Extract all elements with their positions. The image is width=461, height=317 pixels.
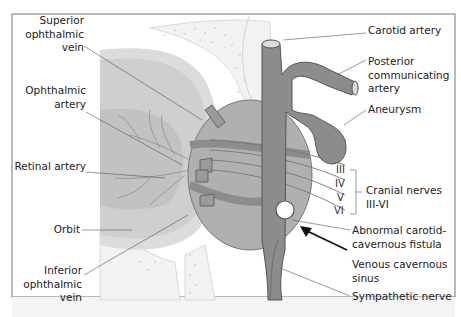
label-orbit: Orbit bbox=[10, 223, 80, 237]
fistula-circle bbox=[276, 201, 294, 219]
label-cranial-nerves: Cranial nerves III-VI bbox=[366, 184, 442, 211]
label-superior-ophthalmic-vein: Superior ophthalmic vein bbox=[10, 14, 84, 55]
nerve-label-iv: IV bbox=[335, 178, 345, 189]
label-venous-cavernous-sinus: Venous cavernous sinus bbox=[352, 258, 448, 285]
label-aneurysm: Aneurysm bbox=[368, 103, 421, 117]
label-abnormal-fistula: Abnormal carotid- cavernous fistula bbox=[352, 224, 446, 251]
label-inferior-ophthalmic-vein: Inferior ophthalmic vein bbox=[10, 264, 82, 305]
label-ophthalmic-artery: Ophthalmic artery bbox=[10, 84, 86, 111]
nerve-label-vi: VI bbox=[334, 205, 344, 216]
label-retinal-artery: Retinal artery bbox=[6, 160, 86, 174]
label-sympathetic-nerve: Sympathetic nerve bbox=[352, 290, 452, 304]
label-carotid-artery: Carotid artery bbox=[368, 24, 441, 38]
nerve-label-v: V bbox=[337, 192, 344, 203]
nerve-label-iii: III bbox=[336, 164, 345, 175]
label-posterior-communicating-artery: Posterior communicating artery bbox=[368, 55, 449, 96]
